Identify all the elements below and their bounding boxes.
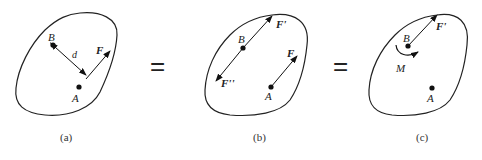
caption-b: (b): [253, 131, 266, 144]
label-f-double-prime: F'': [220, 77, 234, 89]
force-translation-diagram: B d F A (a) = B F' F'' F A (b) = B F' M …: [0, 0, 482, 160]
panel-a: B d F A (a): [16, 13, 117, 144]
rigid-body-outline: [16, 13, 117, 116]
force-f-prime-arrow: [243, 16, 272, 48]
panel-c: B F' M A (c): [369, 14, 468, 144]
equals-sign-1: =: [150, 51, 165, 81]
label-a: A: [71, 92, 79, 104]
point-a-dot: [76, 84, 81, 89]
label-b: B: [48, 31, 55, 43]
label-f: F: [286, 47, 295, 59]
point-a-dot: [429, 85, 434, 90]
label-m: M: [395, 62, 406, 74]
distance-d-dimension: [55, 47, 86, 75]
label-f-prime: F': [275, 18, 286, 30]
label-f: F: [95, 44, 104, 56]
label-b: B: [403, 32, 410, 44]
label-d: d: [72, 49, 78, 60]
panel-b: B F' F'' F A (b): [205, 14, 307, 144]
label-b: B: [238, 33, 245, 45]
equals-sign-2: =: [333, 51, 348, 81]
rigid-body-outline: [205, 14, 307, 115]
caption-c: (c): [416, 131, 429, 144]
label-a: A: [264, 90, 272, 102]
label-a: A: [426, 92, 434, 104]
point-b-dot: [50, 42, 55, 47]
caption-a: (a): [60, 131, 73, 144]
label-f-prime: F': [435, 20, 446, 32]
force-f-arrow: [271, 56, 297, 87]
force-f-prime-arrow: [408, 15, 437, 46]
rigid-body-outline: [369, 14, 468, 115]
